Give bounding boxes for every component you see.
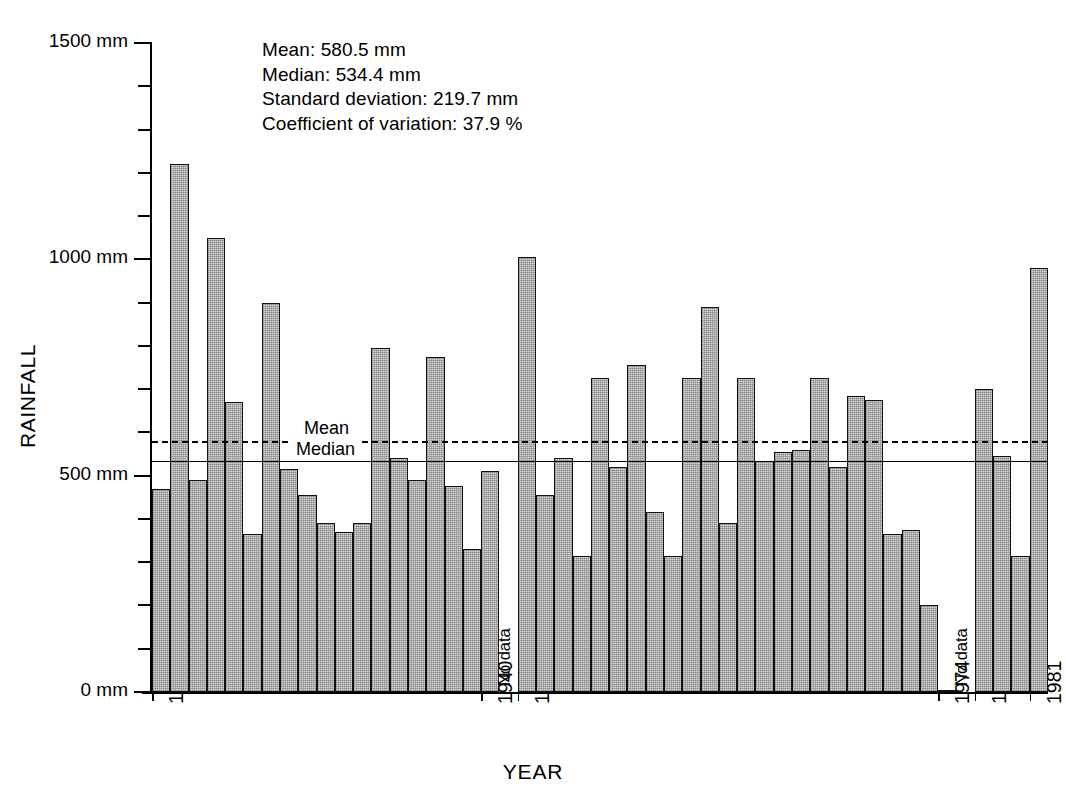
rainfall-bar-chart: Mean: 580.5 mm Median: 534.4 mm Standard… [0, 0, 1066, 807]
y-axis-major-tick [134, 258, 152, 260]
bar[interactable] [883, 534, 901, 692]
bar[interactable] [317, 523, 335, 692]
median-line-label: Median [292, 439, 359, 460]
bar[interactable] [426, 357, 444, 692]
y-axis-minor-tick [138, 518, 152, 520]
bar[interactable] [335, 532, 353, 692]
bar[interactable] [774, 452, 792, 692]
y-axis-major-tick [134, 475, 152, 477]
bar[interactable] [536, 495, 554, 692]
bar[interactable] [1030, 268, 1048, 692]
x-axis-tick-mark [152, 694, 154, 701]
bar[interactable] [701, 307, 719, 692]
x-axis-tick-mark [975, 694, 977, 701]
bar[interactable] [298, 495, 316, 692]
y-axis-minor-tick [138, 604, 152, 606]
y-axis-tick-label: 500 mm [16, 463, 128, 485]
bar[interactable] [627, 365, 645, 692]
bar[interactable] [975, 389, 993, 692]
bar[interactable] [646, 512, 664, 692]
bar[interactable] [189, 480, 207, 692]
mean-line-label: Mean [300, 418, 353, 439]
x-axis-line [142, 692, 1048, 694]
y-axis-minor-tick [138, 129, 152, 131]
y-axis-tick-label: 1500 mm [16, 30, 128, 52]
x-axis-tick-mark [938, 694, 940, 701]
bar[interactable] [390, 458, 408, 692]
x-axis-tick-mark [518, 694, 520, 701]
bar[interactable] [408, 480, 426, 692]
y-axis-minor-tick [138, 345, 152, 347]
y-axis-minor-tick [138, 431, 152, 433]
mean-reference-line [152, 441, 1048, 443]
bar[interactable] [243, 534, 261, 692]
bar[interactable] [1011, 556, 1029, 692]
bar[interactable] [682, 378, 700, 692]
y-axis-minor-tick [138, 561, 152, 563]
y-axis-major-tick [134, 42, 152, 44]
x-axis-title: YEAR [0, 760, 1066, 784]
y-axis-tick-label: 0 mm [16, 679, 128, 701]
y-axis-minor-tick [138, 388, 152, 390]
median-reference-line [152, 461, 1048, 463]
bar[interactable] [262, 303, 280, 692]
no-data-label: No data [495, 628, 514, 686]
bar[interactable] [719, 523, 737, 692]
no-data-label: No data [952, 628, 971, 686]
y-axis-tick-label: 1000 mm [16, 246, 128, 268]
bar[interactable] [371, 348, 389, 692]
y-axis-minor-tick [138, 302, 152, 304]
bar[interactable] [664, 556, 682, 692]
bar[interactable] [353, 523, 371, 692]
bar[interactable] [792, 450, 810, 692]
bar[interactable] [810, 378, 828, 692]
bar[interactable] [463, 549, 481, 692]
y-axis-minor-tick [138, 215, 152, 217]
bar[interactable] [737, 378, 755, 692]
y-axis-minor-tick [138, 648, 152, 650]
bar[interactable] [280, 469, 298, 692]
bar[interactable] [993, 456, 1011, 692]
bar[interactable] [591, 378, 609, 692]
bar[interactable] [573, 556, 591, 692]
y-axis-minor-tick [138, 85, 152, 87]
bar[interactable] [170, 164, 188, 692]
bar[interactable] [829, 467, 847, 692]
bar[interactable] [865, 400, 883, 692]
bar[interactable] [152, 489, 170, 692]
x-axis-tick-mark [1030, 694, 1032, 701]
bar[interactable] [207, 238, 225, 692]
y-axis-title: RAINFALL [16, 316, 40, 476]
bar[interactable] [938, 690, 956, 692]
bar[interactable] [902, 530, 920, 692]
bar[interactable] [609, 467, 627, 692]
bar[interactable] [445, 486, 463, 692]
bar[interactable] [225, 402, 243, 692]
bar[interactable] [554, 458, 572, 692]
y-axis-minor-tick [138, 172, 152, 174]
y-axis-major-tick [134, 691, 152, 693]
plot-area: No dataNo dataMeanMedian [152, 43, 1048, 692]
x-axis-tick-mark [481, 694, 483, 701]
bar[interactable] [518, 257, 536, 692]
bar[interactable] [755, 461, 773, 692]
bar[interactable] [920, 605, 938, 692]
